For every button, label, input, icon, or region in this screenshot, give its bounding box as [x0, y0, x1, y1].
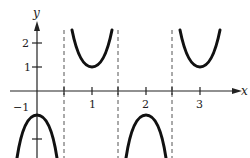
branch-up-at-3	[180, 30, 220, 67]
x-tick-label-3: 3	[196, 98, 203, 111]
y-tick-label-1: 1	[24, 61, 31, 74]
y-axis-arrow-icon	[34, 21, 40, 31]
branch-down-at-2	[126, 115, 166, 158]
x-axis: 1 2 3 x	[10, 84, 248, 111]
branch-up-at-1	[72, 30, 112, 67]
y-tick-label-neg1: −1	[13, 101, 29, 114]
y-tick-label-2: 2	[22, 37, 29, 50]
x-tick-label-1: 1	[89, 98, 96, 111]
y-axis: 2 1 −1 y	[13, 6, 42, 158]
secant-graph: 1 2 3 x 2 1 −1 y	[0, 0, 250, 158]
x-tick-label-2: 2	[142, 98, 149, 111]
y-axis-label: y	[32, 6, 40, 20]
x-axis-label: x	[241, 84, 248, 98]
